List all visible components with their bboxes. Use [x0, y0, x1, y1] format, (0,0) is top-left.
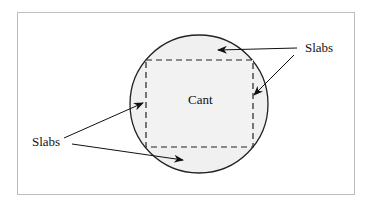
log-cross-section-diagram: Cant Slabs Slabs: [0, 0, 369, 204]
slabs-label-left: Slabs: [32, 134, 60, 149]
slabs-label-right: Slabs: [305, 40, 333, 55]
arrow-left-slab: [64, 103, 143, 138]
cant-label: Cant: [188, 92, 213, 107]
